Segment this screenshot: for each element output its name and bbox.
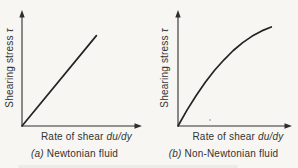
y-axis-label-text: Shearing stress (4, 35, 15, 107)
newtonian-line (22, 36, 96, 126)
scan-speck (209, 119, 211, 121)
fluid-shear-figure: Shearing stress τ Rate of shear du/dy (a… (0, 0, 298, 168)
newtonian-plot (0, 0, 149, 168)
caption-text: Newtonian fluid (47, 148, 118, 159)
x-axis-label-text: Rate of shear (41, 131, 104, 142)
du-dy-symbol: du/dy (107, 131, 132, 142)
x-axis-label: Rate of shear du/dy (180, 131, 296, 142)
x-axis-label-text: Rate of shear (192, 131, 255, 142)
caption-index: (b) (169, 148, 182, 159)
caption-index: (a) (31, 148, 44, 159)
x-axis-arrowhead-icon (135, 123, 143, 128)
y-axis-label: Shearing stress τ (4, 28, 15, 107)
panel-newtonian: Shearing stress τ Rate of shear du/dy (a… (0, 0, 149, 168)
du-dy-symbol: du/dy (258, 131, 283, 142)
x-axis-label: Rate of shear du/dy (26, 131, 147, 142)
y-axis-arrowhead-icon (175, 10, 180, 18)
x-axis-arrowhead-icon (285, 123, 293, 128)
panel-caption: (b) Non-Newtonian fluid (149, 148, 298, 159)
non-newtonian-curve (178, 27, 271, 126)
y-axis-arrowhead-icon (19, 10, 24, 18)
caption-text: Non-Newtonian fluid (184, 148, 278, 159)
panel-caption: (a) Newtonian fluid (0, 148, 149, 159)
tau-symbol: τ (159, 28, 170, 32)
scan-smudge (18, 165, 238, 168)
panel-non-newtonian: Shearing stress τ Rate of shear du/dy (b… (149, 0, 298, 168)
non-newtonian-plot (149, 0, 298, 168)
tau-symbol: τ (4, 28, 15, 32)
y-axis-label: Shearing stress τ (159, 28, 170, 107)
y-axis-label-text: Shearing stress (159, 35, 170, 107)
